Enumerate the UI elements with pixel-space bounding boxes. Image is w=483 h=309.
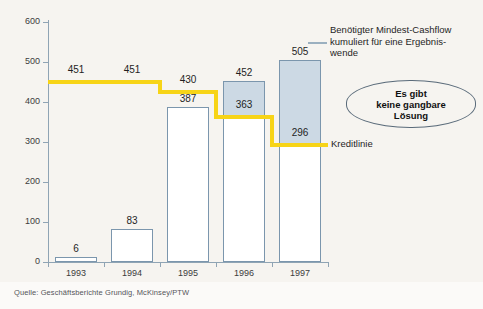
- x-tick-0: [48, 262, 49, 267]
- y-tick-500: [43, 62, 49, 63]
- credit-line-value-1993: 451: [49, 64, 103, 75]
- y-tick-600: [43, 22, 49, 23]
- credit-line-value-1997: 296: [273, 127, 327, 138]
- y-tick-300: [43, 142, 49, 143]
- x-tick-2: [160, 262, 161, 267]
- x-axis-label-1994: 1994: [105, 268, 159, 279]
- bar-value-1997: 505: [273, 46, 327, 57]
- bar-value-1995: 387: [161, 93, 215, 104]
- credit-line-value-1995: 430: [161, 74, 215, 85]
- bar-1993: [55, 257, 97, 262]
- x-axis-label-1993: 1993: [49, 268, 103, 279]
- x-tick-5: [328, 262, 329, 267]
- x-axis-label-1996: 1996: [217, 268, 271, 279]
- y-axis-label-500: 500: [8, 57, 40, 66]
- credit-line-segment-363: [214, 115, 274, 119]
- chart-figure: 600 500 400 300 200 100 0 1993 1994 1995…: [0, 0, 483, 309]
- y-axis-label-200: 200: [8, 177, 40, 186]
- legend-line-2: kumuliert für eine Ergebnis-: [330, 36, 480, 48]
- y-tick-100: [43, 222, 49, 223]
- callout-line-1: Es gibt: [376, 88, 446, 99]
- kreditlinie-leader-line: [310, 144, 328, 147]
- callout-line-3: Lösung: [376, 110, 446, 121]
- bar-value-1993: 6: [49, 243, 103, 254]
- credit-line-value-1994: 451: [105, 64, 159, 75]
- kreditlinie-label: Kreditlinie: [331, 138, 373, 149]
- callout-line-2: keine gangbare: [376, 99, 446, 110]
- x-axis-label-1995: 1995: [161, 268, 215, 279]
- x-axis-line: [48, 262, 328, 263]
- credit-line-segment-430: [158, 90, 218, 94]
- bar-1994: [111, 229, 153, 262]
- x-tick-4: [272, 262, 273, 267]
- credit-line-value-1996: 363: [217, 99, 271, 110]
- x-tick-1: [104, 262, 105, 267]
- y-axis-label-600: 600: [8, 17, 40, 26]
- y-tick-400: [43, 102, 49, 103]
- legend-line-1: Benötigter Mindest-Cashflow: [330, 24, 480, 36]
- source-note: Quelle: Geschäftsberichte Grundig, McKin…: [14, 288, 189, 297]
- bar-value-1996: 452: [217, 67, 271, 78]
- credit-line-segment-451: [48, 80, 162, 84]
- bar-1995: [167, 107, 209, 262]
- callout-ellipse: Es gibt keine gangbare Lösung: [346, 80, 476, 128]
- legend-leader-line: [308, 42, 327, 44]
- legend-cashflow: Benötigter Mindest-Cashflow kumuliert fü…: [330, 24, 480, 59]
- x-tick-3: [216, 262, 217, 267]
- y-tick-200: [43, 182, 49, 183]
- y-axis-label-0: 0: [8, 257, 40, 266]
- bar-value-1994: 83: [105, 215, 159, 226]
- y-axis-label-100: 100: [8, 217, 40, 226]
- callout-text: Es gibt keine gangbare Lösung: [376, 88, 446, 121]
- x-axis-label-1997: 1997: [273, 268, 327, 279]
- legend-line-3: wende: [330, 47, 480, 59]
- y-axis-label-300: 300: [8, 137, 40, 146]
- y-axis-label-400: 400: [8, 97, 40, 106]
